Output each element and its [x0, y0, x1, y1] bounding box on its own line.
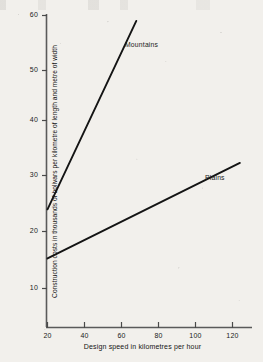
y-axis-title: Construction costs in thousands of boliv… [51, 22, 58, 322]
series-label-plains: Plains [205, 174, 225, 181]
chart-plot-area [0, 0, 263, 362]
series-line-mountains [48, 21, 137, 209]
x-tick-label-40: 40 [72, 332, 97, 339]
x-tick-label-60: 60 [109, 332, 134, 339]
x-tick-label-20: 20 [35, 332, 60, 339]
x-axis-title: Design speed in kilometres per hour [40, 343, 245, 350]
x-tick-label-100: 100 [183, 332, 208, 339]
x-tick-label-120: 120 [220, 332, 245, 339]
y-tick-label-40: 40 [14, 116, 38, 123]
x-tick-label-80: 80 [146, 332, 171, 339]
chart-figure: 60 50 40 30 20 10 20 40 60 80 100 120 Mo… [0, 0, 263, 362]
y-tick-label-60: 60 [14, 11, 38, 18]
y-tick-label-50: 50 [14, 66, 38, 73]
y-tick-label-30: 30 [14, 171, 38, 178]
y-tick-label-20: 20 [14, 227, 38, 234]
y-tick-label-10: 10 [14, 284, 38, 291]
series-label-mountains: Mountains [125, 41, 158, 48]
